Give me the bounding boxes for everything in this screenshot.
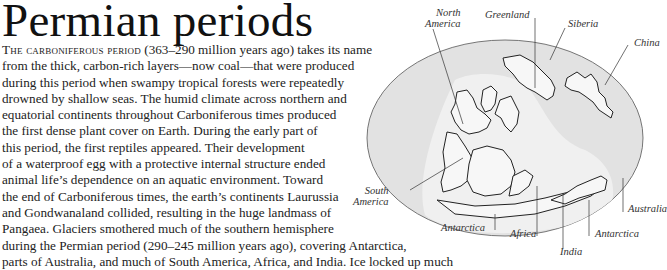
label-china: China (634, 37, 660, 48)
label-south-america: South America (353, 185, 389, 207)
label-north-america: North America (425, 7, 461, 29)
lead-in-small-caps: The carboniferous period (2, 42, 141, 57)
label-india: India (560, 246, 582, 257)
label-antarctica-right: Antarctica (595, 228, 639, 239)
globe-illustration (355, 0, 651, 256)
label-africa: Africa (510, 228, 536, 239)
text-line: parts of Australia, and much of South Am… (2, 254, 453, 270)
label-siberia: Siberia (568, 18, 598, 29)
label-greenland: Greenland (485, 9, 530, 20)
page-title: Permian periods (2, 0, 313, 46)
pangaea-map: North America Greenland Siberia China So… (355, 0, 651, 256)
label-antarctica-left: Antarctica (441, 222, 485, 233)
label-australia: Australia (628, 203, 667, 214)
